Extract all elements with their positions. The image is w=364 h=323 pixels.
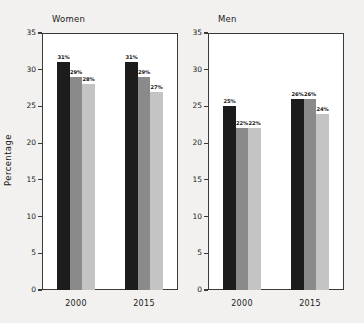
y-axis-tick-label: 20 — [182, 139, 202, 147]
y-axis-tick-mark — [204, 253, 208, 254]
y-axis-tick-label: 10 — [182, 213, 202, 221]
y-axis-tick-label: 0 — [182, 286, 202, 294]
chart-panel-men: Men0510152025303525%22%22%200026%26%24%2… — [0, 0, 364, 323]
y-axis-tick-label: 15 — [182, 176, 202, 184]
bar — [236, 128, 249, 290]
y-axis-tick-mark — [204, 32, 208, 33]
bar — [316, 114, 329, 290]
x-axis-tick-label: 2015 — [285, 299, 335, 308]
chart-figure: Women0510152025303531%29%28%200031%29%27… — [0, 0, 364, 323]
y-axis-tick-mark — [204, 143, 208, 144]
x-axis-tick-label: 2000 — [217, 299, 267, 308]
bar-value-label: 26% — [301, 91, 320, 97]
bar — [223, 106, 236, 290]
y-axis-tick-label: 25 — [182, 102, 202, 110]
bar — [304, 99, 317, 290]
y-axis-tick-mark — [204, 69, 208, 70]
panel-title-men: Men — [218, 14, 237, 24]
y-axis-tick-mark — [204, 179, 208, 180]
y-axis-tick-mark — [204, 289, 208, 290]
bar — [291, 99, 304, 290]
bar-value-label: 24% — [313, 106, 332, 112]
y-axis-tick-label: 35 — [182, 29, 202, 37]
y-axis-title: Percentage — [3, 130, 13, 190]
bar — [248, 128, 261, 290]
bar-value-label: 22% — [245, 120, 264, 126]
y-axis-tick-label: 5 — [182, 249, 202, 257]
y-axis-tick-mark — [204, 106, 208, 107]
y-axis-tick-label: 30 — [182, 66, 202, 74]
y-axis-tick-mark — [204, 216, 208, 217]
bar-value-label: 25% — [220, 98, 239, 104]
